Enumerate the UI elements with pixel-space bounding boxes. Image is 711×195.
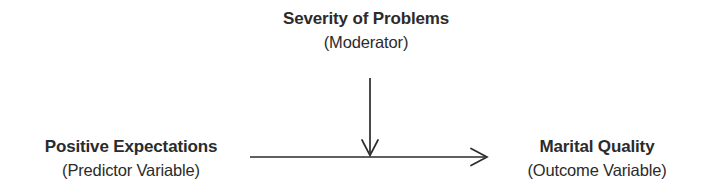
node-predictor-subtitle: (Predictor Variable) xyxy=(45,162,218,179)
node-outcome-title: Marital Quality xyxy=(527,138,666,155)
moderation-model-diagram: Severity of Problems (Moderator) Positiv… xyxy=(0,0,711,195)
node-outcome: Marital Quality (Outcome Variable) xyxy=(527,138,666,179)
node-moderator: Severity of Problems (Moderator) xyxy=(283,10,449,51)
node-moderator-title: Severity of Problems xyxy=(283,10,449,27)
node-outcome-subtitle: (Outcome Variable) xyxy=(527,162,666,179)
moderator-to-path-arrow xyxy=(362,78,378,156)
node-predictor-title: Positive Expectations xyxy=(45,138,218,155)
node-moderator-subtitle: (Moderator) xyxy=(283,34,449,51)
node-predictor: Positive Expectations (Predictor Variabl… xyxy=(45,138,218,179)
